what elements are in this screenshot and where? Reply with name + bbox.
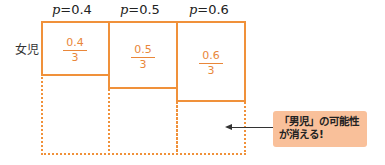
denominator: 3: [55, 52, 95, 64]
numerator: 0.4: [55, 37, 95, 49]
numerator: 0.6: [191, 50, 231, 62]
denominator: 3: [191, 65, 231, 77]
arrow-line: [229, 127, 273, 128]
p-value: =0.6: [197, 2, 229, 17]
column-header-p05: p=0.5: [120, 2, 160, 17]
eliminated-region-p05: [108, 86, 178, 155]
fraction-p05: 0.5 3: [123, 44, 163, 71]
p-value: =0.4: [60, 2, 92, 17]
denominator: 3: [123, 59, 163, 71]
numerator: 0.5: [123, 44, 163, 56]
fraction-p04: 0.4 3: [55, 37, 95, 64]
eliminated-region-p04: [41, 73, 110, 155]
column-header-p04: p=0.4: [52, 2, 92, 17]
p-value: =0.5: [128, 2, 160, 17]
column-header-p06: p=0.6: [189, 2, 229, 17]
arrow-left-icon: [225, 124, 232, 130]
callout-note: 「男児」の可能性が消える!: [273, 111, 367, 147]
row-label-girl: 女児: [15, 40, 39, 57]
fraction-p06: 0.6 3: [191, 50, 231, 77]
